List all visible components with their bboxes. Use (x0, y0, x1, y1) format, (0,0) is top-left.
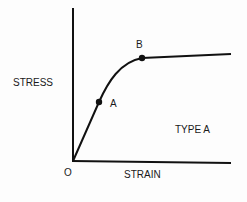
y-axis-label: STRESS (13, 78, 53, 88)
point-a-label: A (110, 99, 117, 109)
point-b-label: B (136, 40, 143, 50)
point-a-marker (96, 99, 102, 105)
stress-strain-curve (73, 54, 231, 161)
x-axis-label: STRAIN (124, 170, 161, 180)
point-b-marker (139, 55, 145, 61)
x-axis (72, 161, 231, 163)
origin-label: O (64, 168, 72, 178)
type-label: TYPE A (175, 125, 210, 135)
stress-strain-diagram: STRESS STRAIN O TYPE A A B (0, 0, 247, 202)
